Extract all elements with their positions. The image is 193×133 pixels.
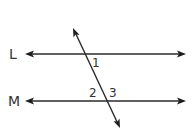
parallel-lines-diagram: L M 1 2 3 [0, 0, 193, 133]
angle-2-label: 2 [89, 86, 97, 100]
line-M-label: M [8, 93, 20, 109]
angle-3-label: 3 [109, 86, 117, 100]
transversal-segment [75, 32, 118, 124]
transversal [73, 28, 120, 128]
angle-1-label: 1 [92, 56, 100, 70]
line-L [25, 51, 186, 58]
line-L-label: L [9, 46, 17, 62]
